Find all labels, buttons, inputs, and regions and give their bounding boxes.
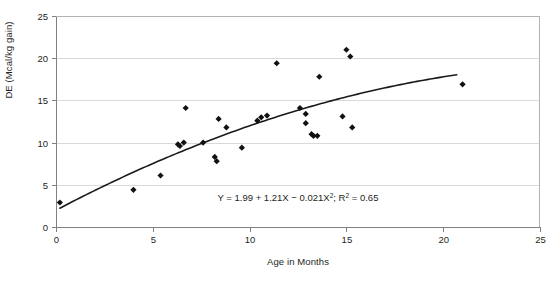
y-tick-label: 5 [43,180,48,191]
y-tick-label: 20 [37,53,48,64]
chart-figure: DE (Mcal/kg gain) 0510152025 0510152025 … [0,0,557,287]
data-point-marker [216,116,222,122]
data-points-group [57,47,466,206]
data-point-marker [274,60,280,66]
data-point-marker [157,172,163,178]
data-point-marker [316,74,322,80]
data-point-marker [303,120,309,126]
data-point-marker [200,140,206,146]
data-point-marker [223,124,229,130]
data-point-marker [459,81,465,87]
x-tick-label: 5 [151,234,156,245]
regression-equation-annotation: Y = 1.99 + 1.21X − 0.021X2; R2 = 0.65 [218,192,379,203]
data-point-marker [57,199,63,205]
data-point-marker [264,112,270,118]
y-tick-label: 25 [37,11,48,22]
x-tick-label: 25 [535,234,546,245]
data-point-marker [183,105,189,111]
data-point-marker [239,145,245,151]
x-tick-label: 0 [54,234,59,245]
data-point-marker [343,47,349,53]
x-tick-label: 15 [342,234,353,245]
data-point-marker [349,124,355,130]
x-axis-ticks-group: 0510152025 [54,227,546,245]
y-axis-ticks-group: 0510152025 [37,11,56,233]
data-point-marker [314,133,320,139]
x-axis-title: Age in Months [56,256,540,267]
gridlines-group [56,17,540,186]
x-tick-label: 20 [438,234,449,245]
regression-curve-group [60,75,457,208]
y-tick-label: 0 [43,222,48,233]
data-point-marker [303,111,309,117]
y-tick-label: 15 [37,95,48,106]
scatter-plot-canvas: 0510152025 0510152025 Y = 1.99 + 1.21X −… [0,0,557,287]
data-point-marker [339,113,345,119]
x-tick-label: 10 [245,234,256,245]
data-point-marker [130,187,136,193]
regression-curve [60,75,457,208]
y-tick-label: 10 [37,138,48,149]
